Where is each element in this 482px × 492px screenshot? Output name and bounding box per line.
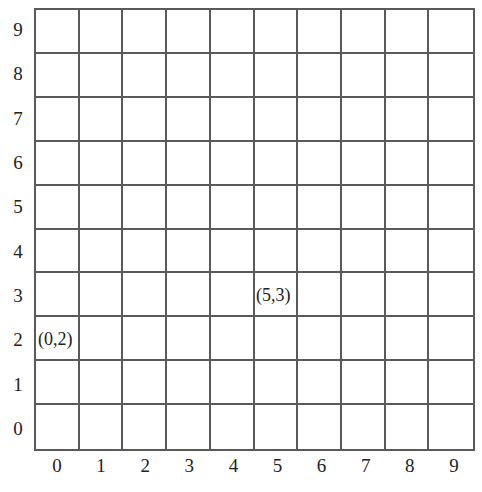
grid-cell <box>429 317 473 361</box>
y-axis-label: 3 <box>8 286 28 306</box>
y-axis-label: 4 <box>8 242 28 262</box>
grid-cell <box>255 54 299 98</box>
grid-cell <box>123 361 167 405</box>
grid-cell <box>429 361 473 405</box>
x-axis-label: 3 <box>179 456 199 476</box>
grid-cell <box>36 230 80 274</box>
x-axis-label: 5 <box>268 456 288 476</box>
grid-cell <box>123 142 167 186</box>
x-axis-label: 6 <box>312 456 332 476</box>
grid-cell <box>211 98 255 142</box>
y-axis-label: 7 <box>8 109 28 129</box>
grid-cell <box>80 10 124 54</box>
y-axis-label: 0 <box>8 419 28 439</box>
x-axis-label: 1 <box>91 456 111 476</box>
grid-cell <box>211 230 255 274</box>
grid-cell <box>255 142 299 186</box>
grid-cell <box>429 405 473 449</box>
grid-cell <box>255 317 299 361</box>
grid-cell <box>429 10 473 54</box>
grid-cell <box>123 98 167 142</box>
grid-cell <box>429 273 473 317</box>
grid-cell <box>80 317 124 361</box>
grid-cell <box>386 10 430 54</box>
y-axis-label: 9 <box>8 20 28 40</box>
grid-cell <box>80 405 124 449</box>
grid-cell <box>167 10 211 54</box>
grid-cell <box>36 10 80 54</box>
grid-cell <box>167 186 211 230</box>
grid-cell <box>429 54 473 98</box>
grid-cell <box>167 405 211 449</box>
grid-cell <box>386 98 430 142</box>
grid-cell <box>255 10 299 54</box>
grid-cell <box>342 10 386 54</box>
grid-cell <box>80 142 124 186</box>
grid-cell <box>255 405 299 449</box>
grid-cell <box>80 361 124 405</box>
grid-cell <box>167 98 211 142</box>
grid-cell <box>429 98 473 142</box>
grid-cell <box>123 10 167 54</box>
grid-cell <box>167 361 211 405</box>
y-axis-label: 1 <box>8 375 28 395</box>
grid-cell <box>386 230 430 274</box>
grid-cell <box>36 98 80 142</box>
y-axis-label: 8 <box>8 64 28 84</box>
grid-cell <box>342 361 386 405</box>
grid-cell <box>386 361 430 405</box>
grid-cell <box>167 273 211 317</box>
grid-cell <box>342 54 386 98</box>
grid-cell <box>36 54 80 98</box>
grid-cell <box>342 98 386 142</box>
grid-cell <box>36 142 80 186</box>
grid-cell <box>211 273 255 317</box>
x-axis-label: 2 <box>135 456 155 476</box>
grid-cell <box>386 142 430 186</box>
grid-cell <box>36 361 80 405</box>
grid-cell <box>342 230 386 274</box>
grid-cell <box>80 186 124 230</box>
grid-cell <box>298 273 342 317</box>
grid-cell <box>255 230 299 274</box>
grid-cell <box>255 98 299 142</box>
y-axis-label: 5 <box>8 197 28 217</box>
grid-cell <box>255 186 299 230</box>
grid-cell <box>123 405 167 449</box>
grid-cell <box>298 54 342 98</box>
grid-cell <box>342 142 386 186</box>
grid-cell <box>342 273 386 317</box>
x-axis-label: 4 <box>223 456 243 476</box>
grid-cell <box>298 405 342 449</box>
grid-cell <box>167 230 211 274</box>
grid-cell <box>211 405 255 449</box>
grid-cell <box>167 317 211 361</box>
grid-cell <box>386 405 430 449</box>
grid-cell <box>36 273 80 317</box>
grid-cell <box>298 186 342 230</box>
grid-cell <box>342 405 386 449</box>
grid-cell <box>342 186 386 230</box>
grid-cell <box>429 186 473 230</box>
grid-cell <box>167 54 211 98</box>
x-axis-label: 7 <box>356 456 376 476</box>
point-label-0-2: (0,2) <box>38 329 73 349</box>
grid-cell <box>80 98 124 142</box>
grid-cell <box>386 317 430 361</box>
grid-cell <box>80 273 124 317</box>
grid-cell <box>36 405 80 449</box>
grid-cell <box>123 54 167 98</box>
grid-cell <box>386 273 430 317</box>
grid-cell <box>255 361 299 405</box>
grid-cell <box>80 230 124 274</box>
y-axis-label: 2 <box>8 330 28 350</box>
grid-cell <box>298 361 342 405</box>
grid-cell <box>211 361 255 405</box>
grid-cell <box>211 142 255 186</box>
point-label-5-3: (5,3) <box>256 285 291 305</box>
grid-cell <box>36 186 80 230</box>
grid-cell <box>342 317 386 361</box>
x-axis-label: 8 <box>400 456 420 476</box>
y-axis-label: 6 <box>8 153 28 173</box>
coordinate-grid <box>34 8 475 451</box>
